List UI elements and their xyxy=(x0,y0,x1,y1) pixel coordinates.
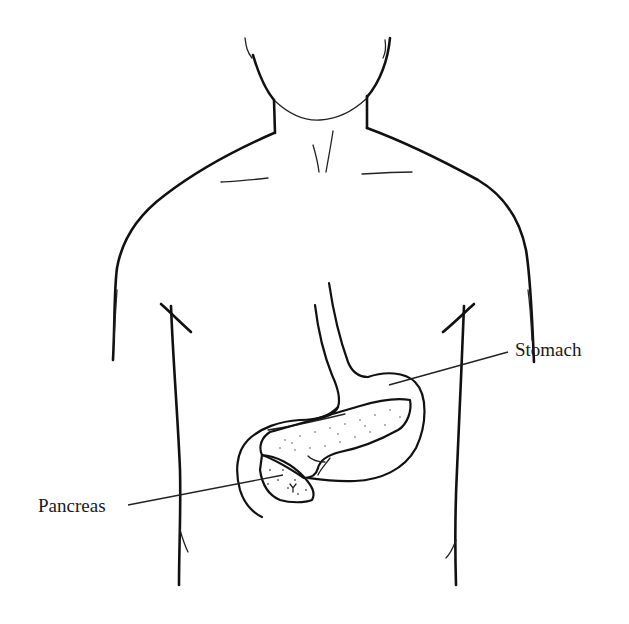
pancreas-label: Pancreas xyxy=(38,496,106,515)
shoulder-outline xyxy=(113,128,534,362)
clavicle-marks xyxy=(221,172,412,182)
esophagus xyxy=(312,283,368,420)
torso-diagram xyxy=(0,0,629,624)
pancreas xyxy=(260,399,411,502)
neck-outline xyxy=(245,38,390,133)
pancreas-leader-line xyxy=(128,475,283,505)
stomach-leader-line xyxy=(389,352,508,385)
stomach-outline xyxy=(237,373,424,517)
stomach-label: Stomach xyxy=(515,340,582,359)
sternal-notch-marks xyxy=(313,131,333,172)
torso-sides xyxy=(114,290,532,585)
